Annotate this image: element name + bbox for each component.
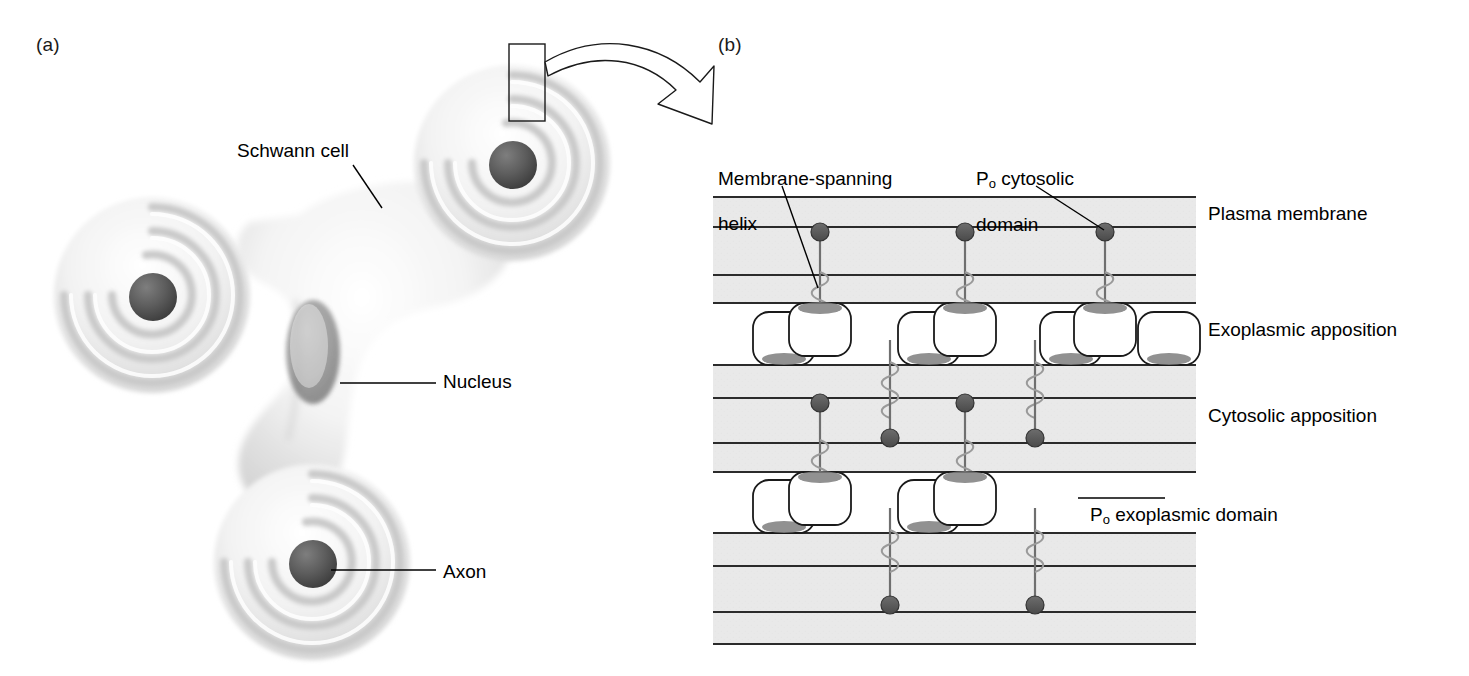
label-line-1: Membrane-spanning (718, 168, 892, 189)
panel-b-letter: (b) (718, 34, 742, 56)
po-symbol: P (1090, 504, 1103, 525)
membrane-bands (713, 196, 1196, 645)
po-symbol: P (976, 168, 989, 189)
label-po-cytosolic-domain: Po cytosolic domain (976, 146, 1074, 237)
panel-a-letter: (a) (36, 34, 60, 56)
label-po-exoplasmic-domain: Po exoplasmic domain (1090, 482, 1278, 528)
label-plasma-membrane: Plasma membrane (1208, 203, 1367, 225)
label-exoplasmic-apposition: Exoplasmic apposition (1208, 319, 1397, 341)
figure-root: (a) (b) Schwann cell Nucleus Axon Membra… (0, 0, 1469, 676)
po-cytosolic-domain-dot (811, 394, 829, 412)
po-cytosolic-domain-dot (1026, 596, 1044, 614)
po-subscript: o (989, 176, 996, 191)
label-schwann-cell: Schwann cell (237, 140, 349, 162)
po-subscript: o (1103, 512, 1110, 527)
label-cytosolic-apposition: Cytosolic apposition (1208, 405, 1377, 427)
label-membrane-spanning-helix: Membrane-spanning helix (718, 146, 892, 236)
po-cytosolic-domain-dot (881, 596, 899, 614)
label-axon: Axon (443, 561, 486, 583)
label-nucleus: Nucleus (443, 371, 512, 393)
label-line-2: helix (718, 213, 757, 234)
label-line-2: domain (976, 214, 1038, 235)
po-cytosolic-domain-dot (956, 394, 974, 412)
po-cytosolic-domain-dot (956, 223, 974, 241)
exoplasmic-apposition-boxes-1 (753, 302, 1200, 365)
po-cytosolic-domain-dot (1026, 429, 1044, 447)
po-cytosolic-domain-dot (1096, 223, 1114, 241)
exoplasmic-apposition-boxes-2 (753, 471, 996, 533)
label-rest: exoplasmic domain (1110, 504, 1278, 525)
po-cytosolic-domain-dot (881, 429, 899, 447)
label-line-1-rest: cytosolic (996, 168, 1074, 189)
